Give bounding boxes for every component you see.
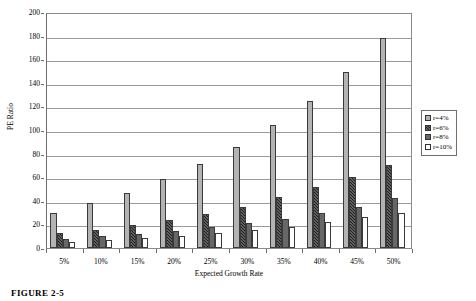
bar — [69, 242, 75, 248]
x-tick-label: 10% — [94, 257, 108, 266]
y-tick-mark — [41, 202, 44, 203]
y-tick-label: 60 — [33, 174, 41, 182]
legend-label: r=10% — [433, 143, 452, 151]
x-tick-mark — [156, 249, 157, 253]
bar — [142, 238, 148, 248]
plot-area — [46, 13, 412, 249]
x-tick-label: 5% — [59, 257, 69, 266]
white-swatch — [425, 144, 431, 150]
y-tick-label: 200 — [29, 9, 40, 17]
y-tick-mark — [41, 131, 44, 132]
y-tick-label: 160 — [29, 56, 40, 64]
legend-label: r=6% — [433, 124, 449, 132]
bar — [362, 217, 368, 248]
chart-legend: r=4%r=6%r=8%r=10% — [421, 110, 457, 156]
x-tick-mark — [192, 249, 193, 253]
x-tick-label: 40% — [314, 257, 328, 266]
light-gray-swatch — [425, 115, 431, 121]
legend-item: r=6% — [425, 124, 452, 134]
bar — [215, 233, 221, 248]
dark-gray-swatch — [425, 134, 431, 140]
x-tick-label: 50% — [387, 257, 401, 266]
x-tick-mark — [412, 249, 413, 253]
x-tick-mark — [339, 249, 340, 253]
legend-item: r=8% — [425, 133, 452, 143]
x-axis: 5%10%15%20%25%30%35%40%45%50% — [46, 249, 412, 271]
y-tick-label: 180 — [29, 33, 40, 41]
figure-container: 020406080100120140160180200 PE Ratio 5%1… — [0, 0, 476, 301]
bar — [325, 222, 331, 248]
x-tick-label: 35% — [277, 257, 291, 266]
x-tick-mark — [83, 249, 84, 253]
legend-label: r=4% — [433, 114, 449, 122]
y-tick-label: 140 — [29, 80, 40, 88]
x-tick-label: 30% — [240, 257, 254, 266]
x-tick-label: 20% — [167, 257, 181, 266]
bar — [289, 227, 295, 248]
y-tick-label: 40 — [33, 198, 41, 206]
x-tick-mark — [46, 249, 47, 253]
bar — [106, 240, 112, 248]
bar — [179, 236, 185, 248]
bar — [398, 213, 404, 248]
y-tick-mark — [41, 84, 44, 85]
bar — [252, 230, 258, 248]
y-tick-mark — [41, 249, 44, 250]
y-tick-mark — [41, 225, 44, 226]
legend-item: r=10% — [425, 143, 452, 153]
y-tick-label: 80 — [33, 151, 41, 159]
y-tick-mark — [41, 13, 44, 14]
legend-label: r=8% — [433, 133, 449, 141]
x-axis-title: Expected Growth Rate — [46, 269, 412, 278]
y-axis-title: PE Ratio — [6, 85, 15, 149]
x-tick-label: 45% — [350, 257, 364, 266]
y-tick-mark — [41, 107, 44, 108]
y-tick-mark — [41, 60, 44, 61]
x-tick-mark — [302, 249, 303, 253]
y-tick-label: 20 — [33, 221, 41, 229]
y-tick-label: 100 — [29, 127, 40, 135]
x-tick-label: 15% — [131, 257, 145, 266]
x-tick-label: 25% — [204, 257, 218, 266]
x-tick-mark — [266, 249, 267, 253]
figure-caption: FIGURE 2-5 — [11, 288, 64, 301]
y-tick-mark — [41, 37, 44, 38]
x-tick-mark — [229, 249, 230, 253]
legend-item: r=4% — [425, 114, 452, 124]
y-tick-mark — [41, 155, 44, 156]
x-tick-mark — [375, 249, 376, 253]
y-tick-label: 0 — [36, 245, 40, 253]
y-tick-mark — [41, 178, 44, 179]
x-tick-mark — [119, 249, 120, 253]
bars-layer — [47, 14, 411, 248]
black-hatched-swatch — [425, 125, 431, 131]
y-tick-label: 120 — [29, 103, 40, 111]
